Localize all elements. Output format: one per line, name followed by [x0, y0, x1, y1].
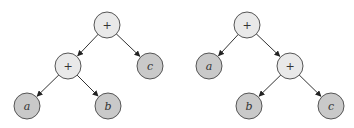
node-plus-operator: + [277, 53, 303, 79]
node-leaf-b: b [95, 93, 121, 119]
right-tree: +a+bc [196, 12, 344, 119]
node-label: a [206, 60, 213, 73]
node-label: c [328, 100, 334, 113]
node-leaf-c: c [137, 53, 163, 79]
node-label: + [63, 60, 72, 73]
node-label: + [285, 60, 294, 73]
node-leaf-a: a [196, 53, 222, 79]
node-label: c [147, 60, 153, 73]
edge-arrow-plus-to-a [37, 74, 59, 96]
node-plus-operator: + [234, 12, 260, 38]
edge-arrow-root-to-plus [78, 34, 99, 56]
edge-arrow-plus-to-b [76, 74, 98, 96]
node-label: + [242, 19, 251, 32]
node-leaf-c: c [318, 93, 344, 119]
node-plus-operator: + [94, 12, 120, 38]
node-label: + [102, 19, 111, 32]
node-leaf-b: b [236, 93, 262, 119]
left-tree: ++cab [14, 12, 163, 119]
edge-arrow-root-to-c [116, 33, 140, 56]
node-label: b [245, 100, 252, 113]
expression-trees-diagram: ++cab +a+bc [0, 0, 354, 128]
node-label: a [24, 100, 31, 113]
node-leaf-a: a [14, 93, 40, 119]
edge-arrow-root-to-a [219, 34, 239, 56]
node-label: b [104, 100, 111, 113]
edge-arrow-plus-to-c [299, 74, 321, 96]
node-plus-operator: + [55, 53, 81, 79]
edge-arrow-plus-to-b [259, 74, 281, 96]
edge-arrow-root-to-plus [256, 33, 280, 56]
